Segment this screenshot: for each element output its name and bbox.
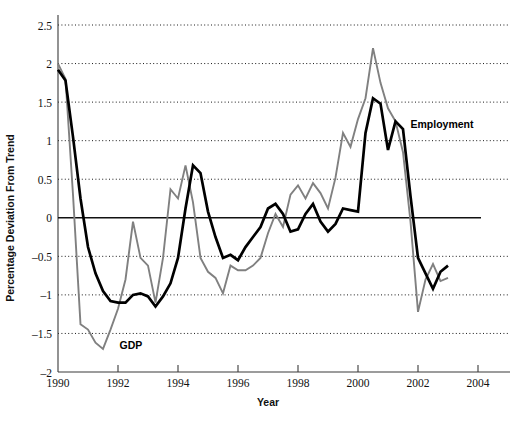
y-tick-label: 0 — [46, 212, 52, 224]
x-axis-title: Year — [257, 396, 279, 408]
y-tick-label: –1 — [40, 289, 53, 301]
x-tick-label: 1990 — [47, 377, 70, 389]
y-tick-label: 2.5 — [38, 20, 53, 32]
gdp-label: GDP — [120, 339, 143, 351]
line-chart: 2.521.510.50–0.5–1–1.5–2 199019921994199… — [0, 0, 510, 421]
y-tick-label: 2 — [46, 58, 52, 70]
y-tick-label: –1.5 — [31, 328, 52, 340]
y-tick-label: 1 — [46, 135, 52, 147]
x-tick-label: 1994 — [167, 377, 190, 389]
x-tick-label: 2000 — [347, 377, 370, 389]
employment-label: Employment — [411, 118, 475, 130]
y-tick-label: –0.5 — [31, 251, 52, 263]
y-tick-label: 0.5 — [38, 174, 53, 186]
x-tick-label: 1998 — [287, 377, 310, 389]
x-tick-label: 1996 — [227, 377, 250, 389]
chart-background — [0, 0, 510, 421]
y-axis-title: Percentage Deviation From Trend — [4, 134, 16, 301]
chart-figure: 2.521.510.50–0.5–1–1.5–2 199019921994199… — [0, 0, 510, 421]
x-tick-label: 1992 — [107, 377, 130, 389]
y-tick-label: 1.5 — [38, 97, 53, 109]
x-tick-label: 2004 — [467, 377, 490, 389]
x-tick-label: 2002 — [407, 377, 430, 389]
